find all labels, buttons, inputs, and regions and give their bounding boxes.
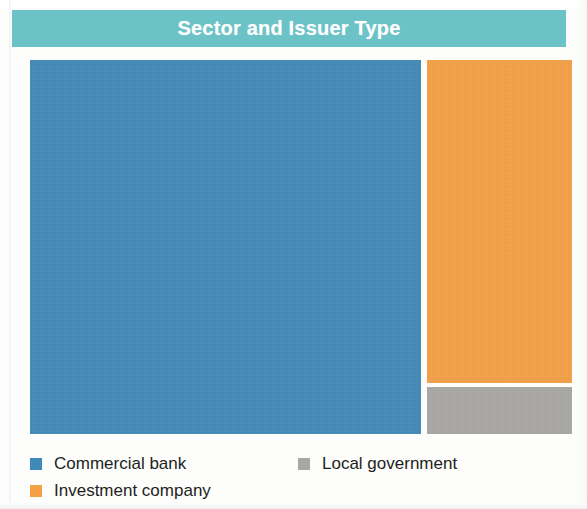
page-edge-top [0,0,587,8]
legend-item-commercial-bank[interactable]: Commercial bank [30,455,186,472]
chart-page: Sector and Issuer Type Commercial bank I… [0,0,587,509]
page-edge-left [9,0,11,509]
treemap-tile-investment-company[interactable] [427,60,572,383]
treemap-tile-local-government[interactable] [427,387,572,434]
legend-swatch-local-government [298,458,310,470]
treemap-tile-commercial-bank[interactable] [30,60,421,434]
chart-title-bar: Sector and Issuer Type [12,10,566,47]
chart-title: Sector and Issuer Type [178,17,401,40]
legend-label-commercial-bank: Commercial bank [54,455,186,472]
chart-legend: Commercial bank Investment company Local… [30,452,575,504]
legend-item-local-government[interactable]: Local government [298,455,457,472]
legend-label-investment-company: Investment company [54,482,211,499]
legend-swatch-investment-company [30,485,42,497]
page-edge-right [578,0,587,509]
legend-label-local-government: Local government [322,455,457,472]
treemap-plot [30,60,572,434]
legend-item-investment-company[interactable]: Investment company [30,482,211,499]
legend-swatch-commercial-bank [30,458,42,470]
